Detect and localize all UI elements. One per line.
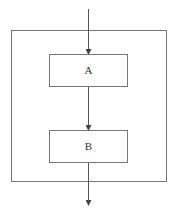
flowchart-canvas — [0, 0, 177, 217]
node-a-label: A — [49, 65, 128, 76]
node-b-label: B — [49, 141, 128, 152]
